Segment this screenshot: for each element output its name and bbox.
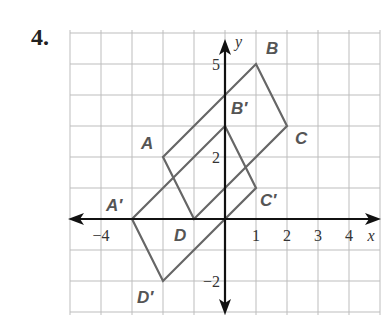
y-axis-label: y: [233, 33, 243, 51]
vertex-label: A: [140, 134, 153, 153]
vertex-label: B′: [231, 99, 248, 118]
x-tick-label: 3: [314, 227, 322, 244]
vertex-label: C: [295, 129, 308, 148]
labels: −4123452−2xyABCDA′B′C′D′: [92, 33, 374, 307]
vertex-label: B: [266, 39, 278, 58]
y-tick-label: 2: [212, 149, 220, 166]
vertex-label: D: [174, 226, 186, 245]
x-tick-label: 2: [283, 227, 291, 244]
vertex-label: D′: [137, 288, 154, 307]
figures: [132, 64, 287, 281]
vertex-label: A′: [105, 196, 123, 215]
x-tick-label: 1: [252, 227, 260, 244]
coordinate-plane: −4123452−2xyABCDA′B′C′D′: [0, 0, 383, 320]
y-tick-label: 5: [212, 56, 220, 73]
x-axis-label: x: [367, 227, 375, 244]
x-tick-label: 4: [345, 227, 353, 244]
vertex-label: C′: [260, 191, 277, 210]
x-tick-label: −4: [92, 227, 109, 244]
y-tick-label: −2: [203, 273, 220, 290]
axes: [68, 39, 381, 315]
